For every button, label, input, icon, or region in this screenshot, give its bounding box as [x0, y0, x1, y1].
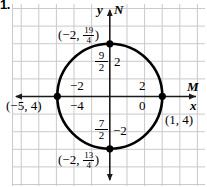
fraction-numerator: 7 [95, 118, 108, 129]
plot-background [12, 4, 205, 186]
point-top [106, 40, 113, 47]
tick-label-neg-four: −4 [70, 99, 84, 112]
point-label-top-prefix: (−2, [58, 27, 83, 42]
fraction-denominator: 4 [83, 160, 94, 170]
tick-label-two-upper: 2 [114, 55, 121, 68]
point-label-top-suffix: ) [95, 27, 99, 42]
tick-label-neg-two-lower: −2 [113, 124, 127, 137]
tick-label-zero: 0 [139, 99, 146, 112]
point-bottom [106, 145, 113, 152]
fraction-denominator: 2 [95, 129, 108, 141]
axis-label-y: y [97, 3, 103, 16]
fraction-denominator: 4 [83, 35, 94, 45]
point-label-left: (−5, 4) [6, 99, 42, 112]
point-right [159, 93, 166, 100]
point-label-bottom-prefix: (−2, [58, 152, 83, 167]
fraction-numerator: 19 [83, 26, 94, 35]
fraction-denominator: 2 [95, 61, 108, 73]
point-label-bottom: (−2, 134) [58, 151, 99, 170]
coordinate-plane-svg [0, 0, 207, 187]
point-left [54, 93, 61, 100]
point-label-top: (−2, 194) [58, 26, 99, 45]
fraction-numerator: 9 [95, 50, 108, 61]
axis-label-N: N [114, 3, 123, 16]
fraction-numerator: 13 [83, 151, 94, 160]
point-label-top-fraction: 194 [83, 26, 94, 45]
tick-label-seven-halves: 7 2 [95, 118, 108, 141]
point-label-right: (1, 4) [165, 113, 193, 126]
point-label-bottom-suffix: ) [95, 152, 99, 167]
graph-figure: 1. [0, 0, 207, 187]
axis-label-M: M [187, 80, 199, 93]
axis-label-x: x [190, 99, 197, 112]
tick-label-nine-halves: 9 2 [95, 50, 108, 73]
point-label-bottom-fraction: 134 [83, 151, 94, 170]
tick-label-two-right: 2 [139, 79, 146, 92]
tick-label-neg-two-left: −2 [70, 79, 84, 92]
